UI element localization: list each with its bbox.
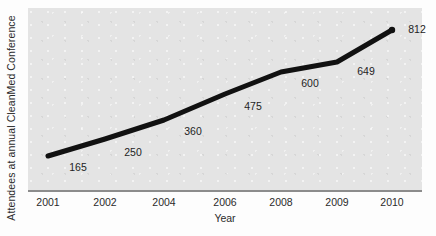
attendees-line (48, 30, 392, 156)
value-label-2002: 250 (124, 146, 142, 158)
x-tick-2004: 2004 (152, 196, 175, 208)
chart-figure: Attendees at annual CleanMed Conference … (0, 0, 436, 236)
value-label-2010: 812 (408, 23, 426, 35)
value-label-2008: 600 (301, 77, 319, 89)
x-tick-2006: 2006 (213, 196, 236, 208)
value-label-2009: 649 (357, 65, 375, 77)
x-tick-2010: 2010 (380, 196, 403, 208)
x-tick-2008: 2008 (269, 196, 292, 208)
value-label-2001: 165 (69, 161, 87, 173)
x-tick-2002: 2002 (93, 196, 116, 208)
y-axis-title: Attendees at annual CleanMed Conference (0, 0, 22, 236)
x-axis-line (28, 190, 422, 192)
value-label-2006: 475 (244, 100, 262, 112)
x-tick-2009: 2009 (325, 196, 348, 208)
x-tick-2001: 2001 (36, 196, 59, 208)
end-point-marker (389, 27, 395, 33)
x-axis-title: Year (214, 212, 235, 224)
value-label-2004: 360 (184, 125, 202, 137)
